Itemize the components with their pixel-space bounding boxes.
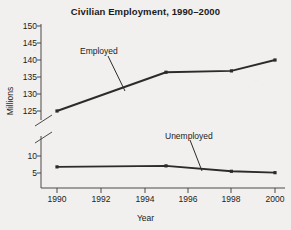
leader-line-employed — [108, 56, 125, 91]
axis-break-slash-upper — [35, 115, 52, 126]
data-point-marker — [230, 69, 233, 72]
chart-figure: Civilian Employment, 1990–2000 Millions … — [0, 0, 291, 230]
data-point-marker — [164, 71, 167, 74]
series-markers-employed — [55, 58, 276, 112]
data-point-marker — [230, 170, 233, 173]
data-point-marker — [55, 165, 58, 168]
data-point-marker — [273, 58, 276, 61]
leader-line-unemployed — [190, 140, 202, 171]
data-point-marker — [164, 164, 167, 167]
data-point-marker — [273, 171, 276, 174]
data-point-marker — [55, 109, 58, 112]
series-line-employed — [57, 60, 275, 111]
axis-break-slash-lower — [35, 132, 52, 143]
plot-area — [0, 0, 291, 230]
